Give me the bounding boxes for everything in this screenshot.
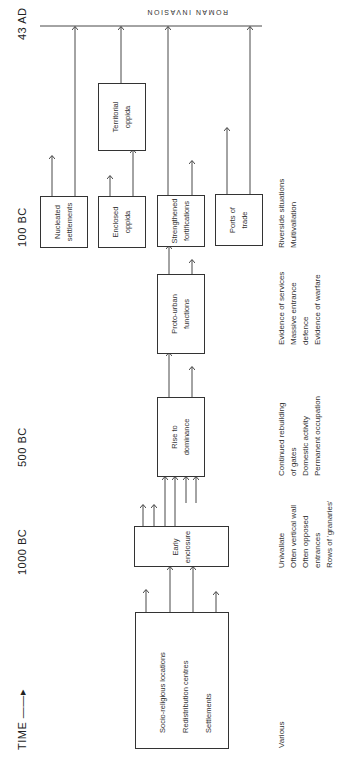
char-line: Univallate bbox=[276, 500, 288, 568]
territorial-line-2: oppida bbox=[122, 102, 134, 133]
time-mark-1000bc: 1000 BC bbox=[16, 529, 28, 575]
box-proto-urban: Proto-urban functions bbox=[157, 274, 205, 354]
char-line: Various bbox=[276, 721, 288, 748]
box-nucleated-settlements: Nucleated settlements bbox=[40, 196, 88, 248]
characteristics-late: Riverside situations Multivallation bbox=[276, 179, 300, 248]
time-mark-500bc: 500 BC bbox=[16, 427, 28, 467]
char-line: Domestic activity bbox=[300, 396, 312, 476]
box-rise-to-dominance: Rise to dominance bbox=[157, 397, 205, 477]
enclosed-line-1: Enclosed bbox=[110, 207, 122, 238]
time-label: TIME bbox=[16, 722, 28, 750]
early-line-2: enclosure bbox=[182, 530, 194, 563]
time-mark-43ad: 43 AD bbox=[16, 8, 28, 40]
characteristics-proto: Evidence of services Massive entrance de… bbox=[276, 272, 324, 345]
origins-line-1: Socio-religious locations bbox=[151, 652, 174, 733]
territorial-line-1: Territorial bbox=[110, 102, 122, 133]
char-line: Continued rebuilding bbox=[276, 396, 288, 476]
box-ports-of-trade: Ports of trade bbox=[215, 194, 263, 246]
strengthened-line-1: Strengthened bbox=[169, 198, 181, 243]
char-line: Often vertical wall bbox=[288, 500, 300, 568]
early-line-1: Early bbox=[170, 530, 182, 563]
char-line: Evidence of warfare bbox=[312, 272, 324, 345]
char-line: of gates bbox=[288, 396, 300, 476]
ports-line-1: Ports of bbox=[227, 207, 239, 233]
nucleated-line-2: settlements bbox=[64, 203, 76, 241]
char-line: Multivallation bbox=[288, 179, 300, 248]
char-line: Often opposed bbox=[300, 500, 312, 568]
rise-line-1: Rise to bbox=[169, 419, 181, 456]
strengthened-line-2: fortifications bbox=[181, 198, 193, 243]
time-arrow-icon: ——▸ bbox=[16, 689, 28, 719]
characteristics-rise: Continued rebuilding of gates Domestic a… bbox=[276, 396, 324, 476]
ports-line-2: trade bbox=[239, 207, 251, 233]
proto-line-2: functions bbox=[181, 294, 193, 334]
origins-line-2: Redistribution centres bbox=[174, 652, 197, 733]
origins-line-3: Settlements bbox=[197, 652, 220, 733]
enclosed-line-2: oppida bbox=[122, 207, 134, 238]
box-enclosed-oppida: Enclosed oppida bbox=[98, 196, 146, 248]
char-line: Rows of 'granaries' bbox=[324, 500, 336, 568]
char-line: Evidence of services bbox=[276, 272, 288, 345]
char-line: Massive entrance bbox=[288, 272, 300, 345]
char-line: defence bbox=[300, 272, 312, 345]
characteristics-various: Various bbox=[276, 721, 288, 748]
box-territorial-oppida: Territorial oppida bbox=[98, 83, 146, 151]
rise-line-2: dominance bbox=[181, 419, 193, 456]
nucleated-line-1: Nucleated bbox=[52, 203, 64, 241]
time-mark-100bc: 100 BC bbox=[16, 207, 28, 247]
char-line: Riverside situations bbox=[276, 179, 288, 248]
box-origins: Socio-religious locations Redistribution… bbox=[135, 612, 229, 749]
time-axis-label: TIME ——▸ bbox=[16, 689, 28, 750]
char-line: entrances bbox=[312, 500, 324, 568]
roman-invasion-label: ROMAN INVASION bbox=[146, 9, 228, 16]
char-line: Permanent occupation bbox=[312, 396, 324, 476]
characteristics-early: Univallate Often vertical wall Often opp… bbox=[276, 500, 336, 568]
box-strengthened-fortifications: Strengthened fortifications bbox=[157, 195, 205, 247]
proto-line-1: Proto-urban bbox=[169, 294, 181, 334]
box-early-enclosure: Early enclosure bbox=[134, 526, 229, 567]
